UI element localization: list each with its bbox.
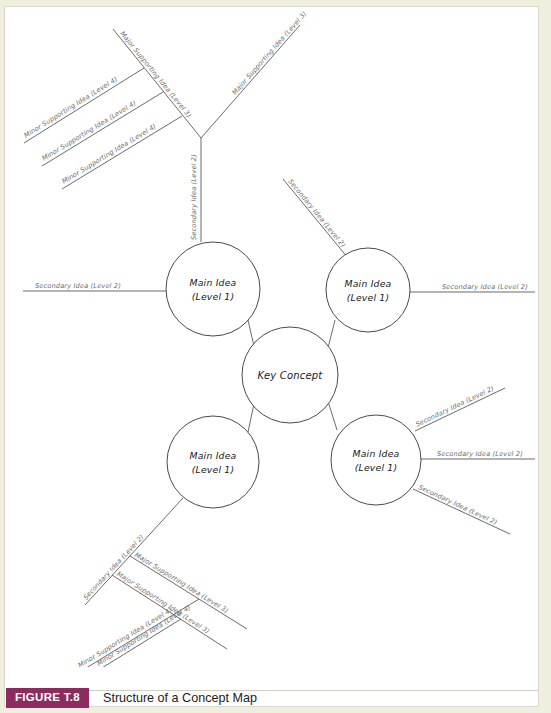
node-main-idea-top-right[interactable]: Main Idea (Level 1) <box>326 248 410 332</box>
edge-top-right-major-up <box>201 25 300 138</box>
label-bottom-left-major-1: Major Supporting Idea (Level 3) <box>133 551 230 615</box>
label-top-right-diagonal: Secondary Idea (Level 2) <box>286 178 347 249</box>
key-concept-label: Key Concept <box>257 370 323 381</box>
concept-map-svg: Key Concept Main Idea (Level 1) Main Ide… <box>5 7 539 667</box>
main-idea-title: Main Idea <box>189 450 236 461</box>
figure-caption: FIGURE T.8 Structure of a Concept Map <box>4 686 539 710</box>
main-idea-level: (Level 1) <box>192 464 235 475</box>
label-bottom-left-minor-1: Minor Supporting Idea (Level 4) <box>77 606 174 667</box>
edge-bottom-right-se <box>413 489 510 534</box>
label-bottom-right-se: Secondary Idea (Level 2) <box>417 483 498 526</box>
figure-number-badge: FIGURE T.8 <box>6 688 89 708</box>
label-top-right-east: Secondary Idea (Level 2) <box>442 283 528 291</box>
node-key-concept[interactable]: Key Concept <box>242 327 338 423</box>
label-bottom-left-secondary: Secondary Idea (Level 2) <box>82 533 146 602</box>
label-top-left-minor-2: Minor Supporting Idea (Level 4) <box>41 99 138 163</box>
edge-top-right-diagonal <box>283 179 348 258</box>
edge-top-left-minor-3 <box>62 116 182 189</box>
node-main-idea-top-left[interactable]: Main Idea (Level 1) <box>166 242 260 336</box>
label-top-left-west: Secondary Idea (Level 2) <box>35 282 121 290</box>
main-idea-circle <box>166 242 260 336</box>
label-top-left-minor-3: Minor Supporting Idea (Level 4) <box>61 122 158 185</box>
label-top-right-major: Major Supporting Idea (Level 3) <box>231 10 309 97</box>
concept-map-diagram: Key Concept Main Idea (Level 1) Main Ide… <box>5 7 539 667</box>
figure-title: Structure of a Concept Map <box>103 691 257 705</box>
main-idea-level: (Level 1) <box>347 292 390 303</box>
label-top-left-minor-1: Minor Supporting Idea (Level 4) <box>22 75 119 139</box>
main-idea-title: Main Idea <box>344 278 391 289</box>
main-idea-title: Main Idea <box>189 277 236 288</box>
edge-top-left-major-branch <box>113 29 201 138</box>
label-bottom-right-ne: Secondary Idea (Level 2) <box>414 384 495 428</box>
main-idea-circle <box>331 415 421 505</box>
main-idea-circle <box>167 416 259 508</box>
figure-page: Key Concept Main Idea (Level 1) Main Ide… <box>4 6 539 707</box>
main-idea-circle <box>326 248 410 332</box>
main-idea-level: (Level 1) <box>192 291 235 302</box>
edge-bottom-right-ne <box>415 388 505 431</box>
label-bottom-right-east: Secondary Idea (Level 2) <box>437 450 523 458</box>
label-top-left-trunk: Secondary Idea (Level 2) <box>190 154 198 240</box>
label-bottom-left-minor-2: Minor Supporting Idea (Level 4) <box>96 603 193 667</box>
node-main-idea-bottom-right[interactable]: Main Idea (Level 1) <box>331 415 421 505</box>
main-idea-title: Main Idea <box>352 448 399 459</box>
main-idea-level: (Level 1) <box>355 462 398 473</box>
node-main-idea-bottom-left[interactable]: Main Idea (Level 1) <box>167 416 259 508</box>
